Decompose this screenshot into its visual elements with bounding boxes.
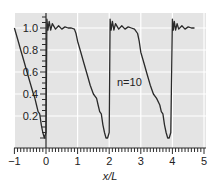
y-tick-label: 0.4: [23, 88, 38, 100]
y-tick-label: 0.2: [23, 110, 38, 122]
annotation-n: n=10: [117, 76, 142, 88]
x-tick-label: 3: [138, 155, 144, 167]
x-tick-label: 0: [43, 155, 49, 167]
x-axis: −1012345: [8, 148, 207, 167]
x-tick-label: −1: [8, 155, 21, 167]
y-tick-label: 0.6: [23, 66, 38, 78]
x-axis-label: x/L: [102, 170, 118, 182]
x-tick-label: 4: [169, 155, 175, 167]
x-tick-label: 2: [106, 155, 112, 167]
x-tick-label: 1: [75, 155, 81, 167]
y-tick-label: 1.0: [23, 22, 38, 34]
x-tick-label: 5: [201, 155, 207, 167]
y-tick-label: 0.8: [23, 44, 38, 56]
chart-svg: −1012345 0.20.40.60.81.0 n=10 x/L: [0, 0, 218, 185]
